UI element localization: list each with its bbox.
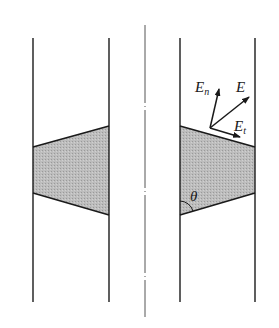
label-Et: Et — [233, 118, 246, 136]
insulator-field-diagram: En E Et θ — [0, 0, 279, 328]
left-insulator-section — [33, 126, 109, 215]
label-theta: θ — [190, 188, 198, 204]
label-E: E — [235, 79, 245, 95]
label-En: En — [194, 79, 209, 97]
